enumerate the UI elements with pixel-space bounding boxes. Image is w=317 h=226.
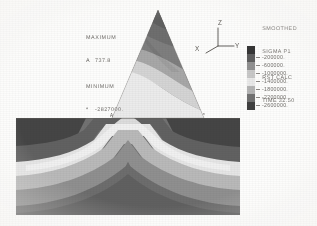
base-marker-right: * bbox=[203, 113, 205, 118]
contour-bands-foundation bbox=[16, 118, 240, 215]
minimum-label: MINIMUM bbox=[86, 84, 123, 92]
color-scale-tick-dash bbox=[256, 73, 260, 74]
color-scale-tick: -2600000. bbox=[256, 102, 288, 108]
color-scale-tick-label: -1400000. bbox=[262, 78, 288, 84]
color-scale-tick-label: -600000. bbox=[262, 62, 285, 68]
color-scale-bar bbox=[247, 46, 255, 110]
minmax-annotation: MAXIMUM A 737.8 MINIMUM * -2827000. bbox=[86, 20, 123, 129]
color-scale-segment bbox=[247, 70, 255, 78]
axis-triad: Z Y X bbox=[196, 20, 240, 60]
color-scale-tick: -1400000. bbox=[256, 78, 288, 84]
color-scale-tick-dash bbox=[256, 89, 260, 90]
minimum-value-row: * -2827000. bbox=[86, 107, 123, 115]
color-scale-tick-dash bbox=[256, 65, 260, 66]
color-scale-tick-label: -1800000. bbox=[262, 86, 288, 92]
maximum-symbol: A bbox=[86, 58, 92, 66]
axis-label-y: Y bbox=[235, 42, 239, 49]
color-scale-ticks: -200000.-600000.-1000000.-1400000.-18000… bbox=[256, 44, 316, 114]
axis-triad-icon bbox=[196, 20, 240, 60]
color-scale-tick-label: -2200000. bbox=[262, 94, 288, 100]
color-scale-tick-dash bbox=[256, 97, 260, 98]
color-scale-tick: -2200000. bbox=[256, 94, 288, 100]
color-scale-tick-dash bbox=[256, 57, 260, 58]
color-scale-tick: -200000. bbox=[256, 54, 285, 60]
color-scale-tick-dash bbox=[256, 105, 260, 106]
maximum-value: 737.8 bbox=[95, 58, 111, 66]
contour-plot-body bbox=[16, 118, 240, 215]
legend-title-line-1: SMOOTHED bbox=[262, 26, 297, 34]
maximum-label: MAXIMUM bbox=[86, 35, 123, 43]
minimum-value: -2827000. bbox=[95, 107, 123, 115]
color-scale-tick: -1800000. bbox=[256, 86, 288, 92]
figure-canvas: A * MAXIMUM A 737.8 MINIMUM * -2827000. … bbox=[0, 0, 317, 226]
color-scale-tick: -1000000. bbox=[256, 70, 288, 76]
color-scale-segment bbox=[247, 54, 255, 62]
color-scale-segment bbox=[247, 78, 255, 86]
axis-label-z: Z bbox=[218, 19, 222, 26]
color-scale-segment bbox=[247, 86, 255, 94]
color-scale-tick-dash bbox=[256, 81, 260, 82]
minimum-symbol: * bbox=[86, 107, 92, 115]
color-scale-segment bbox=[247, 62, 255, 70]
color-scale-segment bbox=[247, 102, 255, 110]
peak-contour-bands bbox=[110, 10, 206, 122]
axis-label-x: X bbox=[195, 45, 199, 52]
maximum-value-row: A 737.8 bbox=[86, 58, 123, 66]
color-scale-tick-label: -1000000. bbox=[262, 70, 288, 76]
color-scale-segment bbox=[247, 46, 255, 54]
color-scale-tick-label: -2600000. bbox=[262, 102, 288, 108]
color-scale-tick-label: -200000. bbox=[262, 54, 285, 60]
color-scale-tick: -600000. bbox=[256, 62, 285, 68]
color-scale-segment bbox=[247, 94, 255, 102]
foundation-baseline bbox=[16, 118, 240, 119]
contour-plot-peak bbox=[110, 10, 206, 122]
